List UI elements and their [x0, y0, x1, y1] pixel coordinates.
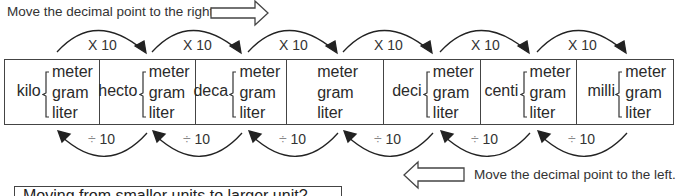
divide-label: ÷ 10	[279, 131, 306, 147]
unit-list: metergramliter	[149, 62, 190, 124]
unit-gram: gram	[239, 83, 280, 104]
unit-list: metergramliter	[317, 62, 358, 124]
unit-meter: meter	[433, 62, 474, 83]
unit-liter: liter	[239, 103, 280, 124]
divide-value: 10	[386, 131, 402, 147]
unit-meter: meter	[239, 62, 280, 83]
brace-icon	[423, 71, 431, 118]
multiply-label: X 10	[471, 37, 500, 53]
divide-value: 10	[580, 131, 596, 147]
prefix-label: hecto	[98, 82, 137, 100]
brace-icon	[139, 71, 147, 118]
brace-icon	[520, 71, 528, 118]
unit-liter: liter	[149, 103, 190, 124]
metric-prefix-table: kilometergramliterhectometergramliterdec…	[4, 59, 674, 125]
prefix-label: centi	[484, 82, 518, 100]
question-box: Moving from smaller units to larger unit…	[14, 186, 342, 196]
prefix-label: kilo	[17, 82, 41, 100]
unit-gram: gram	[149, 83, 190, 104]
unit-meter: meter	[625, 62, 666, 83]
cell-kilo: kilometergramliter	[5, 60, 100, 124]
unit-liter: liter	[530, 103, 571, 124]
unit-liter: liter	[52, 103, 93, 124]
divide-value: 10	[195, 131, 211, 147]
divide-value: 10	[291, 131, 307, 147]
unit-list: metergramliter	[433, 62, 474, 124]
divide-symbol-icon: ÷	[279, 131, 287, 147]
divide-symbol-icon: ÷	[183, 131, 191, 147]
multiply-label: X 10	[183, 37, 212, 53]
brace-icon	[229, 71, 237, 118]
divide-arrows	[58, 131, 627, 156]
multiply-label: X 10	[279, 37, 308, 53]
unit-liter: liter	[625, 103, 666, 124]
cell-centi: centimetergramliter	[481, 60, 578, 124]
unit-liter: liter	[317, 103, 358, 124]
brace-icon	[42, 71, 50, 118]
unit-list: metergramliter	[625, 62, 666, 124]
divide-symbol-icon: ÷	[374, 131, 382, 147]
unit-list: metergramliter	[239, 62, 280, 124]
multiply-label: X 10	[374, 37, 403, 53]
unit-meter: meter	[52, 62, 93, 83]
multiply-arrows	[57, 30, 626, 53]
unit-liter: liter	[433, 103, 474, 124]
divide-value: 10	[483, 131, 499, 147]
unit-gram: gram	[625, 83, 666, 104]
cell-hecto: hectometergramliter	[100, 60, 197, 124]
unit-gram: gram	[433, 83, 474, 104]
multiply-label: X 10	[568, 37, 597, 53]
divide-label: ÷ 10	[374, 131, 401, 147]
prefix-label: deci	[392, 82, 421, 100]
cell-deci: decimetergramliter	[384, 60, 481, 124]
prefix-label: deca	[193, 82, 228, 100]
unit-gram: gram	[52, 83, 93, 104]
cell-base: metergramliter	[287, 60, 384, 124]
unit-meter: meter	[149, 62, 190, 83]
divide-symbol-icon: ÷	[88, 131, 96, 147]
divide-label: ÷ 10	[88, 131, 115, 147]
unit-list: metergramliter	[52, 62, 93, 124]
unit-meter: meter	[317, 62, 358, 83]
cell-deca: decametergramliter	[196, 60, 287, 124]
unit-gram: gram	[530, 83, 571, 104]
unit-list: metergramliter	[530, 62, 571, 124]
divide-label: ÷ 10	[183, 131, 210, 147]
unit-gram: gram	[317, 83, 358, 104]
divide-label: ÷ 10	[568, 131, 595, 147]
multiply-label: X 10	[88, 37, 117, 53]
divide-symbol-icon: ÷	[568, 131, 576, 147]
divide-symbol-icon: ÷	[471, 131, 479, 147]
brace-icon	[615, 71, 623, 118]
hollow-left-arrow-icon	[404, 162, 464, 188]
divide-value: 10	[100, 131, 116, 147]
unit-meter: meter	[530, 62, 571, 83]
prefix-label: milli	[587, 82, 615, 100]
cell-milli: millimetergramliter	[577, 60, 673, 124]
hollow-right-arrow-icon	[211, 1, 268, 25]
divide-label: ÷ 10	[471, 131, 498, 147]
